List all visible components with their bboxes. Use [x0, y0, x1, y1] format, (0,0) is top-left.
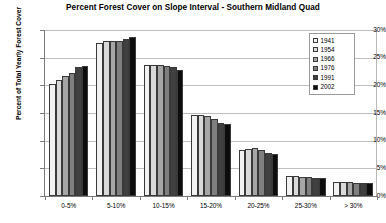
bar-group — [92, 30, 139, 196]
bar-1941-0-5% — [49, 84, 56, 196]
bar-2002-25-30% — [319, 178, 326, 196]
bar-group — [140, 30, 187, 196]
bar-1976-10-15% — [164, 66, 171, 196]
x-tick-mark — [282, 196, 283, 200]
x-tick-mark — [45, 196, 46, 200]
bar-1976-15-20% — [211, 119, 218, 196]
bar-1976-25-30% — [306, 177, 313, 196]
y-tick-mark — [40, 30, 44, 31]
chart-title: Percent Forest Cover on Slope Interval -… — [0, 3, 386, 12]
bar-1976-> 30% — [353, 183, 360, 196]
bar-1941-25-30% — [286, 176, 293, 196]
legend-item-1976: 1976 — [313, 64, 352, 73]
bar-1966-0-5% — [62, 76, 69, 196]
legend-swatch-icon — [313, 66, 318, 71]
x-tick-label: 10-15% — [139, 203, 189, 209]
x-tick-mark — [377, 196, 378, 200]
bar-1976-0-5% — [69, 73, 76, 196]
bar-2002-0-5% — [82, 66, 89, 196]
bar-1941-10-15% — [144, 65, 151, 196]
x-tick-mark — [330, 196, 331, 200]
bar-1954-> 30% — [340, 182, 347, 196]
bar-1991-5-10% — [123, 39, 130, 196]
legend-item-1941: 1941 — [313, 36, 352, 45]
bar-1966-15-20% — [204, 116, 211, 196]
bar-1966-25-30% — [299, 177, 306, 196]
x-tick-mark — [235, 196, 236, 200]
y-tick-mark — [40, 85, 44, 86]
y-tick-mark — [40, 196, 44, 197]
bar-1941-> 30% — [333, 182, 340, 196]
bar-2002-20-25% — [272, 154, 279, 196]
legend-label: 1954 — [321, 47, 335, 53]
legend-label: 1941 — [321, 38, 335, 44]
bar-1941-15-20% — [191, 115, 198, 196]
bar-1954-25-30% — [293, 176, 300, 196]
legend-swatch-icon — [313, 38, 318, 43]
legend-item-1966: 1966 — [313, 55, 352, 64]
bar-1976-5-10% — [116, 41, 123, 196]
x-tick-label: 5-10% — [91, 203, 141, 209]
y-tick-mark — [40, 168, 44, 169]
bar-group — [187, 30, 234, 196]
bar-1966-> 30% — [347, 182, 354, 196]
bar-1954-20-25% — [245, 149, 252, 196]
bar-1976-20-25% — [258, 150, 265, 196]
bar-1991-15-20% — [218, 123, 225, 196]
legend-item-1991: 1991 — [313, 73, 352, 82]
y-tick-mark — [40, 58, 44, 59]
legend-label: 1991 — [321, 75, 335, 81]
x-tick-label: 25-30% — [281, 203, 331, 209]
x-tick-label: 0-5% — [44, 203, 94, 209]
bar-1954-15-20% — [198, 115, 205, 196]
legend-swatch-icon — [313, 85, 318, 90]
bar-1991-0-5% — [75, 67, 82, 196]
x-tick-mark — [187, 196, 188, 200]
bar-2002-10-15% — [177, 70, 184, 196]
bar-1991-10-15% — [170, 67, 177, 196]
x-axis-line — [44, 196, 377, 197]
bar-1941-5-10% — [96, 43, 103, 196]
legend-item-1954: 1954 — [313, 45, 352, 54]
bar-group — [45, 30, 92, 196]
legend-swatch-icon — [313, 57, 318, 62]
bar-1954-0-5% — [56, 80, 63, 196]
x-tick-mark — [140, 196, 141, 200]
bar-2002-5-10% — [129, 37, 136, 196]
legend-item-2002: 2002 — [313, 82, 352, 91]
x-tick-mark — [92, 196, 93, 200]
bar-1941-20-25% — [239, 150, 246, 196]
bar-1991-> 30% — [360, 183, 367, 196]
bar-2002-15-20% — [224, 124, 231, 196]
x-tick-label: 15-20% — [186, 203, 236, 209]
bar-1966-10-15% — [157, 65, 164, 196]
chart-legend: 194119541966197619912002 — [309, 33, 355, 95]
legend-swatch-icon — [313, 47, 318, 52]
bar-1954-10-15% — [150, 65, 157, 196]
y-tick-mark — [40, 113, 44, 114]
legend-label: 1976 — [321, 65, 335, 71]
x-tick-label: > 30% — [328, 203, 378, 209]
legend-label: 1966 — [321, 56, 335, 62]
bar-1991-25-30% — [312, 178, 319, 196]
legend-swatch-icon — [313, 75, 318, 80]
bar-2002-> 30% — [366, 183, 373, 196]
y-axis-title: Percent of Total Yearly Forest Cover — [15, 0, 22, 134]
legend-label: 2002 — [321, 84, 335, 90]
bar-1991-20-25% — [265, 153, 272, 196]
bar-1954-5-10% — [103, 41, 110, 196]
bar-group — [235, 30, 282, 196]
bar-1966-20-25% — [252, 148, 259, 196]
chart-container: Percent Forest Cover on Slope Interval -… — [0, 0, 386, 223]
x-tick-label: 20-25% — [233, 203, 283, 209]
bar-1966-5-10% — [110, 41, 117, 196]
y-tick-mark — [40, 141, 44, 142]
